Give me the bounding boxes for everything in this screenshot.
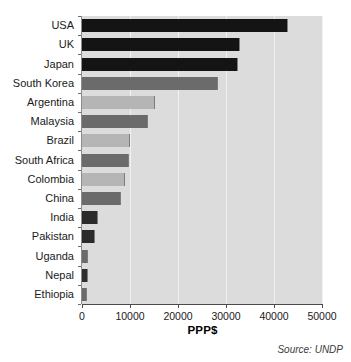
x-axis-tick-label: 10000 (115, 309, 144, 323)
x-axis-tick-label: 40000 (259, 309, 288, 323)
y-axis-tick-label: Pakistan (0, 227, 78, 246)
x-axis-tick (274, 304, 275, 308)
y-axis-tick (78, 189, 81, 190)
bar-row (82, 246, 322, 265)
y-axis-tick (78, 131, 81, 132)
y-axis-tick (78, 93, 81, 94)
y-axis-tick-label: Nepal (0, 266, 78, 285)
y-axis-tick-label: Ethiopia (0, 285, 78, 304)
bar-series (82, 16, 322, 304)
bar (82, 192, 121, 205)
y-axis-tick-label: Argentina (0, 93, 78, 112)
bar-row (82, 285, 322, 304)
y-axis-tick-label: Japan (0, 54, 78, 73)
y-axis-tick-label: South Korea (0, 74, 78, 93)
y-axis-tick (78, 54, 81, 55)
y-axis-tick-label: Colombia (0, 170, 78, 189)
y-axis-tick (78, 112, 81, 113)
x-axis-tick-label: 0 (79, 309, 85, 323)
bar-chart: USAUKJapanSouth KoreaArgentinaMalaysiaBr… (0, 0, 351, 362)
x-axis-tick (178, 304, 179, 308)
source-note: Source: UNDP (277, 344, 343, 355)
y-axis-tick-label: India (0, 208, 78, 227)
y-axis-tick-label: Malaysia (0, 112, 78, 131)
x-axis-tick (322, 304, 323, 308)
bar (82, 250, 88, 263)
y-axis-tick-label: USA (0, 16, 78, 35)
bar-row (82, 74, 322, 93)
bar (82, 58, 238, 71)
bar (82, 173, 125, 186)
y-axis-tick-label: Brazil (0, 131, 78, 150)
bar (82, 269, 88, 282)
bar (82, 288, 87, 301)
bar-row (82, 131, 322, 150)
bar-row (82, 54, 322, 73)
x-axis-tick-label: 20000 (163, 309, 192, 323)
bar (82, 19, 288, 32)
y-axis-tick (78, 150, 81, 151)
y-axis-tick (78, 16, 81, 17)
y-axis-tick (78, 285, 81, 286)
y-axis-category-labels: USAUKJapanSouth KoreaArgentinaMalaysiaBr… (0, 16, 78, 304)
bar (82, 77, 218, 90)
gridline (322, 16, 323, 304)
bar-row (82, 150, 322, 169)
y-axis-tick (78, 304, 81, 305)
y-axis-tick-label: Uganda (0, 246, 78, 265)
y-axis-line (81, 16, 82, 304)
x-axis-tick (82, 304, 83, 308)
y-axis-tick (78, 227, 81, 228)
x-axis-tick-label: 50000 (307, 309, 336, 323)
bar-row (82, 227, 322, 246)
bar-row (82, 189, 322, 208)
bar-row (82, 35, 322, 54)
bar-row (82, 93, 322, 112)
x-axis-title: PPP$ (82, 324, 323, 336)
x-axis-tick (226, 304, 227, 308)
y-axis-tick (78, 246, 81, 247)
bar-row (82, 170, 322, 189)
bar-row (82, 16, 322, 35)
bar (82, 134, 130, 147)
y-axis-tick (78, 35, 81, 36)
bar (82, 154, 129, 167)
y-axis-tick (78, 74, 81, 75)
x-axis-tick (130, 304, 131, 308)
y-axis-tick (78, 208, 81, 209)
bar-row (82, 266, 322, 285)
bar-row (82, 112, 322, 131)
bar (82, 96, 155, 109)
y-axis-tick (78, 170, 81, 171)
bar (82, 115, 148, 128)
y-axis-tick-label: South Africa (0, 150, 78, 169)
bar (82, 230, 95, 243)
plot-area (82, 16, 322, 304)
y-axis-tick-label: UK (0, 35, 78, 54)
bar (82, 38, 240, 51)
x-axis-tick-labels: 01000020000300004000050000 (82, 309, 323, 323)
y-axis-tick-label: China (0, 189, 78, 208)
x-axis-tick-label: 30000 (211, 309, 240, 323)
y-axis-tick (78, 266, 81, 267)
bar-row (82, 208, 322, 227)
bar (82, 211, 98, 224)
